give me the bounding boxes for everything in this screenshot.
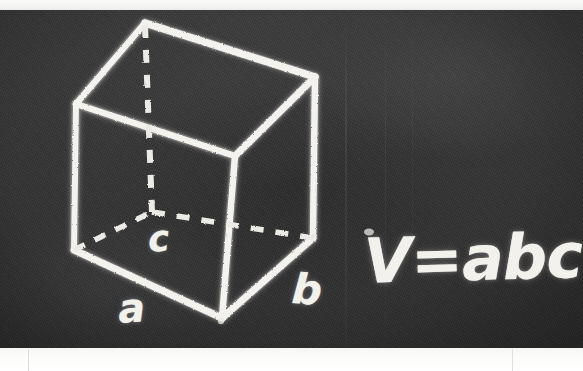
hidden-edge-bottom-left [74,212,152,250]
edge-front-vertical [222,156,235,318]
frame-tick-right [512,349,513,371]
frame-bottom-edge [0,348,583,371]
label-width-a: a [117,287,147,329]
edge-top-back-to-top-right [145,23,315,77]
edge-top-left-to-top-front [76,104,235,156]
chalkboard-photo: c a b V=abc [0,0,583,371]
label-depth-c: c [146,220,170,258]
cube-diagram [0,0,583,371]
volume-formula: V=abc [363,225,582,293]
edge-left-vertical [74,104,76,250]
edge-top-back-to-top-left [76,23,145,104]
edge-top-right-to-top-front [235,77,315,156]
edge-right-vertical [313,77,315,238]
edge-bottom-left-to-front [74,250,222,318]
label-length-b: b [291,268,324,312]
frame-tick-left [28,349,29,371]
hidden-edge-vertical [145,25,152,212]
